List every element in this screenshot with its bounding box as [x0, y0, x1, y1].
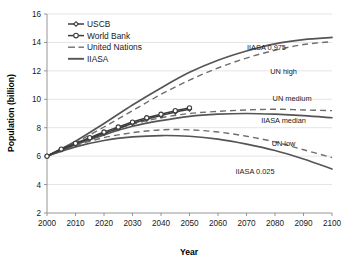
y-tick-label: 4 [36, 181, 41, 190]
legend-label: IIASA [87, 54, 109, 64]
chart-svg: 246810121416 200020102020203020402050206… [0, 0, 354, 270]
y-tick-label: 8 [36, 124, 41, 133]
y-tick-label: 14 [32, 38, 42, 47]
curve-label-iiasa-median: IIASA median [261, 116, 306, 125]
y-tick-label: 6 [36, 152, 41, 161]
y-tick-label: 12 [32, 67, 42, 76]
marker-world-bank [102, 130, 106, 134]
marker-world-bank [59, 147, 63, 151]
curve-label-un-high: UN high [270, 67, 297, 76]
marker-world-bank [130, 120, 134, 124]
marker-world-bank [145, 116, 149, 120]
y-axis-title: Population (billion) [6, 74, 16, 152]
legend-label: United Nations [87, 42, 142, 52]
marker-world-bank [88, 136, 92, 140]
x-axis-title: Year [180, 247, 199, 257]
marker-world-bank [159, 112, 163, 116]
legend-label: World Bank [87, 31, 131, 41]
x-axis-tick-labels: 2000201020202030204020502060207020802090… [38, 219, 342, 228]
marker-world-bank [187, 106, 191, 110]
x-tick-label: 2050 [180, 219, 199, 228]
x-tick-label: 2070 [237, 219, 256, 228]
x-tick-label: 2080 [266, 219, 285, 228]
population-projection-chart: 246810121416 200020102020203020402050206… [0, 0, 354, 270]
x-tick-label: 2040 [152, 219, 171, 228]
curve-label-un-medium: UN medium [273, 94, 312, 103]
marker-world-bank [73, 141, 77, 145]
marker-world-bank [173, 109, 177, 113]
y-tick-label: 16 [32, 10, 42, 19]
curve-label-iiasa-0-025: IIASA 0.025 [236, 167, 275, 176]
marker-world-bank [116, 125, 120, 129]
x-tick-label: 2020 [95, 219, 114, 228]
y-axis-tick-labels: 246810121416 [32, 10, 42, 218]
x-tick-label: 2100 [323, 219, 342, 228]
marker-world-bank [45, 154, 49, 158]
y-tick-label: 10 [32, 95, 42, 104]
x-tick-label: 2090 [294, 219, 313, 228]
legend-label: USCB [87, 19, 111, 29]
x-tick-label: 2010 [66, 219, 85, 228]
curve-label-un-low: UN low [272, 139, 296, 148]
x-tick-label: 2000 [38, 219, 57, 228]
legend-marker-circle [74, 33, 79, 38]
x-tick-label: 2060 [209, 219, 228, 228]
x-tick-label: 2030 [123, 219, 142, 228]
curve-label-iiasa-0-975: IIASA 0.975 [247, 43, 286, 52]
y-tick-label: 2 [36, 209, 41, 218]
